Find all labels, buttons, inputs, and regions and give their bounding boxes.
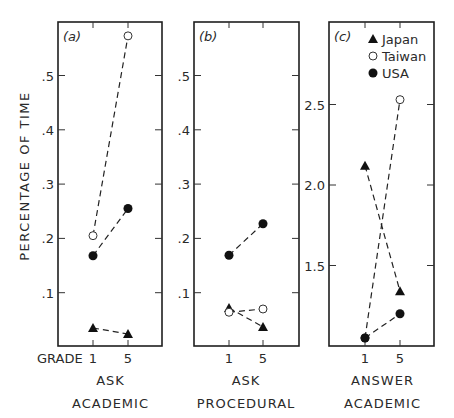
y-tick-label: .1 bbox=[178, 286, 190, 301]
panel-tag: (c) bbox=[334, 29, 351, 44]
series-japan bbox=[360, 161, 405, 296]
data-point bbox=[396, 96, 404, 104]
x-tick-label: 1 bbox=[361, 351, 369, 366]
y-axis-label: PERCENTAGE OF TIME bbox=[17, 91, 32, 261]
data-point bbox=[258, 322, 268, 331]
data-point bbox=[124, 204, 133, 213]
y-tick-label: .2 bbox=[42, 231, 54, 246]
x-tick-label: 5 bbox=[259, 351, 267, 366]
series-line bbox=[365, 100, 400, 338]
legend-marker-icon bbox=[369, 52, 377, 60]
y-tick-label: .1 bbox=[42, 286, 54, 301]
data-point bbox=[89, 232, 97, 240]
legend-item-taiwan: Taiwan bbox=[369, 49, 426, 64]
y-tick-label: .3 bbox=[42, 177, 54, 192]
legend-marker-icon bbox=[368, 34, 378, 43]
legend-label: USA bbox=[382, 66, 409, 81]
data-point bbox=[396, 309, 405, 318]
panel-b: .1.2.3.4.515ASKPROCEDURAL(b) bbox=[178, 22, 299, 411]
grade-label: GRADE bbox=[37, 351, 83, 366]
legend-label: Taiwan bbox=[381, 49, 426, 64]
y-tick-label: .2 bbox=[178, 231, 190, 246]
series-japan bbox=[88, 323, 133, 338]
panels: .1.2.3.4.515ASKACADEMIC(a).1.2.3.4.515AS… bbox=[42, 22, 434, 411]
data-point bbox=[259, 305, 267, 313]
data-point bbox=[89, 251, 98, 260]
series-line bbox=[229, 308, 263, 327]
data-point bbox=[88, 323, 98, 332]
series-taiwan bbox=[225, 305, 267, 316]
category-label-line2: ACADEMIC bbox=[72, 396, 149, 411]
series-usa bbox=[225, 219, 268, 259]
series-taiwan bbox=[361, 96, 404, 342]
x-tick-label: 5 bbox=[396, 351, 404, 366]
y-tick-label: 1.5 bbox=[304, 259, 325, 274]
x-tick-label: 5 bbox=[124, 351, 132, 366]
series-line bbox=[93, 328, 128, 334]
data-point bbox=[225, 251, 234, 260]
panel-tag: (a) bbox=[63, 29, 81, 44]
category-label-line1: ANSWER bbox=[351, 373, 414, 388]
category-label-line1: ASK bbox=[232, 373, 261, 388]
category-label-line2: ACADEMIC bbox=[344, 396, 421, 411]
legend: JapanTaiwanUSA bbox=[368, 32, 426, 81]
series-line bbox=[93, 209, 128, 256]
chart-canvas: PERCENTAGE OF TIME GRADE .1.2.3.4.515ASK… bbox=[0, 0, 454, 418]
y-tick-label: .4 bbox=[42, 123, 54, 138]
data-point bbox=[259, 219, 268, 228]
legend-label: Japan bbox=[381, 32, 418, 47]
series-line bbox=[93, 36, 128, 236]
data-point bbox=[360, 161, 370, 170]
x-tick-label: 1 bbox=[89, 351, 97, 366]
legend-marker-icon bbox=[369, 69, 378, 78]
y-tick-label: .3 bbox=[178, 177, 190, 192]
panel-c: 1.52.02.515ANSWERACADEMIC(c) bbox=[304, 22, 434, 411]
legend-item-usa: USA bbox=[369, 66, 410, 81]
data-point bbox=[361, 333, 370, 342]
panel-frame bbox=[58, 22, 162, 346]
data-point bbox=[395, 286, 405, 295]
series-line bbox=[365, 314, 400, 338]
series-line bbox=[365, 166, 400, 292]
category-label-line2: PROCEDURAL bbox=[197, 396, 296, 411]
figure: PERCENTAGE OF TIME GRADE .1.2.3.4.515ASK… bbox=[0, 0, 454, 418]
y-tick-label: 2.5 bbox=[304, 98, 325, 113]
data-point bbox=[124, 32, 132, 40]
category-label-line1: ASK bbox=[96, 373, 125, 388]
y-tick-label: .5 bbox=[42, 69, 54, 84]
panel-tag: (b) bbox=[199, 29, 217, 44]
y-tick-label: .5 bbox=[178, 69, 190, 84]
panel-frame bbox=[194, 22, 299, 346]
x-tick-label: 1 bbox=[225, 351, 233, 366]
series-line bbox=[229, 224, 263, 255]
y-tick-label: 2.0 bbox=[304, 178, 325, 193]
legend-item-japan: Japan bbox=[368, 32, 418, 47]
data-point bbox=[225, 308, 233, 316]
y-tick-label: .4 bbox=[178, 123, 190, 138]
